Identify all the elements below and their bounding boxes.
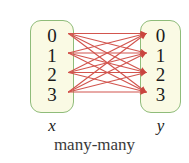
domain-set-box: 0 1 2 3: [30, 20, 74, 113]
mapping-edge: [69, 34, 147, 73]
domain-element-list: 0 1 2 3: [31, 21, 73, 112]
mapping-edge: [69, 73, 147, 93]
codomain-set-label: y: [140, 117, 181, 134]
domain-element-1: 1: [31, 46, 73, 65]
mapping-edge: [69, 34, 147, 73]
mapping-edge: [69, 53, 147, 73]
many-many-relation-figure: 0 1 2 3 0 1 2 3 x y many-many: [0, 0, 189, 163]
domain-element-2: 2: [31, 65, 73, 84]
domain-element-0: 0: [31, 26, 73, 45]
mapping-edge: [69, 53, 147, 73]
codomain-element-3: 3: [141, 85, 180, 104]
domain-element-3: 3: [31, 85, 73, 104]
codomain-element-2: 2: [141, 65, 180, 84]
codomain-set-box: 0 1 2 3: [140, 20, 181, 113]
figure-caption: many-many: [0, 136, 189, 153]
domain-set-label: x: [30, 117, 74, 134]
mapping-edge: [69, 34, 147, 54]
mapping-edge: [69, 34, 147, 93]
mapping-edge: [69, 34, 147, 54]
mapping-edge: [69, 34, 147, 93]
mapping-edge: [69, 73, 147, 93]
codomain-element-0: 0: [141, 26, 180, 45]
mapping-edge: [69, 53, 147, 92]
mapping-edge: [69, 53, 147, 92]
codomain-element-list: 0 1 2 3: [141, 21, 180, 112]
codomain-element-1: 1: [141, 46, 180, 65]
